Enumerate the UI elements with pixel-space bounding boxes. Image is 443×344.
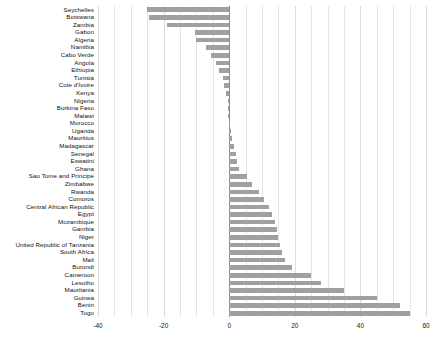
x-tick-label: 0: [227, 322, 231, 329]
value-axis: -40-200204060: [98, 317, 426, 341]
category-label: Botswana: [0, 13, 94, 21]
bar: [167, 23, 229, 28]
category-label: Togo: [0, 309, 94, 317]
category-label: Benin: [0, 301, 94, 309]
bar: [223, 76, 230, 81]
category-label: Gambia: [0, 225, 94, 233]
category-label: Zambia: [0, 21, 94, 29]
bar: [229, 243, 280, 248]
bar: [229, 258, 285, 263]
category-label: Madagascar: [0, 142, 94, 150]
category-label: Uganda: [0, 127, 94, 135]
bar: [229, 167, 239, 172]
plot-area: [98, 6, 426, 317]
category-label: Lesotho: [0, 279, 94, 287]
category-label: Zimbabwe: [0, 180, 94, 188]
gridline: [426, 6, 427, 317]
bar: [229, 281, 321, 286]
bar: [229, 273, 311, 278]
category-label: Egypt: [0, 210, 94, 218]
x-tick-label: 20: [291, 322, 298, 329]
horizontal-bar-chart: SeychellesBotswanaZambiaGabonAlgeriaNami…: [0, 0, 443, 344]
category-label: Guinea: [0, 294, 94, 302]
category-label: Kenya: [0, 89, 94, 97]
bar: [229, 250, 281, 255]
bar: [149, 15, 229, 20]
bar: [228, 99, 230, 104]
category-label: Central African Republic: [0, 203, 94, 211]
category-axis-labels: SeychellesBotswanaZambiaGabonAlgeriaNami…: [0, 6, 94, 317]
bar: [229, 212, 272, 217]
category-label: Mali: [0, 256, 94, 264]
category-label: Mozambique: [0, 218, 94, 226]
bar: [229, 303, 400, 308]
category-label: Comoros: [0, 195, 94, 203]
category-label: Eswatini: [0, 157, 94, 165]
bar: [229, 288, 344, 293]
bar: [229, 227, 277, 232]
bar: [229, 311, 409, 316]
bar: [147, 7, 229, 12]
category-label: United Republic of Tanzania: [0, 241, 94, 249]
bar: [229, 159, 237, 164]
x-tick-label: -20: [159, 322, 168, 329]
category-label: Nigeria: [0, 97, 94, 105]
category-label: Cote d'Ivoire: [0, 81, 94, 89]
x-tick-label: 60: [422, 322, 429, 329]
category-label: Rwanda: [0, 188, 94, 196]
category-label: Niger: [0, 233, 94, 241]
bar: [206, 45, 229, 50]
bar: [229, 129, 231, 134]
category-label: Senegal: [0, 150, 94, 158]
category-label: Mauritius: [0, 134, 94, 142]
bar: [229, 190, 259, 195]
bars: [98, 6, 426, 317]
bar: [229, 152, 236, 157]
category-label: Morocco: [0, 119, 94, 127]
bar: [226, 91, 229, 96]
category-label: Cameroon: [0, 271, 94, 279]
category-label: Mauritania: [0, 286, 94, 294]
bar: [219, 68, 229, 73]
bar: [216, 61, 229, 66]
category-label: South Africa: [0, 248, 94, 256]
bar: [229, 205, 268, 210]
bar: [229, 182, 252, 187]
bar: [228, 114, 229, 119]
bar: [229, 296, 377, 301]
category-label: Malawi: [0, 112, 94, 120]
bar: [224, 83, 229, 88]
bar: [229, 121, 230, 126]
bar: [229, 136, 232, 141]
category-label: Cabo Verde: [0, 51, 94, 59]
bar: [211, 53, 229, 58]
category-label: Angola: [0, 59, 94, 67]
category-label: Algeria: [0, 36, 94, 44]
category-label: Burkina Faso: [0, 104, 94, 112]
category-label: Gabon: [0, 28, 94, 36]
bar: [196, 38, 229, 43]
bar: [228, 106, 229, 111]
bar: [229, 174, 247, 179]
bar: [229, 144, 234, 149]
category-label: Sao Tome and Principe: [0, 172, 94, 180]
x-tick-label: -40: [93, 322, 102, 329]
category-label: Ethiopia: [0, 66, 94, 74]
bar: [229, 265, 291, 270]
category-label: Tunisia: [0, 74, 94, 82]
x-tick-label: 40: [357, 322, 364, 329]
bar: [229, 220, 275, 225]
bar: [229, 197, 263, 202]
bar: [195, 30, 229, 35]
category-label: Burundi: [0, 263, 94, 271]
category-label: Seychelles: [0, 6, 94, 14]
category-label: Ghana: [0, 165, 94, 173]
bar: [229, 235, 278, 240]
category-label: Namibia: [0, 43, 94, 51]
